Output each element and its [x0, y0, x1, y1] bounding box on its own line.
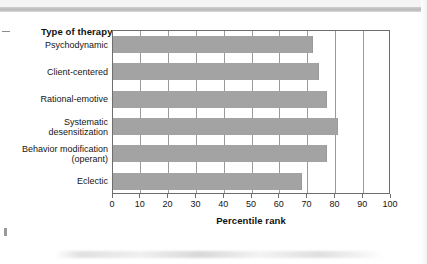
bar-slot [113, 91, 389, 108]
x-tick-mark-60 [278, 194, 279, 198]
x-tick-label-40: 40 [218, 199, 228, 209]
page-top-margin [0, 0, 427, 7]
x-tick-mark-30 [195, 194, 196, 198]
x-axis-title: Percentile rank [112, 215, 390, 226]
bar-slot [113, 36, 389, 53]
x-tick-label-10: 10 [135, 199, 145, 209]
x-tick-label-70: 70 [302, 199, 312, 209]
x-tick-label-0: 0 [109, 199, 114, 209]
bar-slot [113, 173, 389, 190]
category-label: Rational-emotive [40, 94, 108, 105]
category-label-line: Behavior modification [22, 143, 108, 154]
category-label-line: Client-centered [47, 67, 108, 78]
y-axis-title: Type of therapy [41, 26, 113, 37]
category-label-line: Eclectic [77, 176, 108, 187]
x-tick-label-50: 50 [246, 199, 256, 209]
bar-psychodynamic [113, 36, 313, 53]
x-tick-mark-40 [223, 194, 224, 198]
bar-row: Client-centered [113, 58, 389, 85]
bar-slot [113, 145, 389, 162]
category-label: Client-centered [47, 67, 108, 78]
bar-client-centered [113, 63, 319, 80]
x-tick-mark-10 [139, 194, 140, 198]
category-label-line: Rational-emotive [40, 94, 108, 105]
category-label-line: Systematic [48, 116, 108, 127]
bar-row: Eclectic [113, 168, 389, 195]
category-label-line: desensitization [48, 127, 108, 138]
caption-smudge [55, 251, 385, 258]
x-tick-label-60: 60 [274, 199, 284, 209]
plot-area: PsychodynamicClient-centeredRational-emo… [112, 30, 390, 194]
bar-chart: Type of therapy PsychodynamicClient-cent… [0, 12, 427, 252]
bar-row: Psychodynamic [113, 31, 389, 58]
x-tick-label-30: 30 [190, 199, 200, 209]
bar-eclectic [113, 173, 302, 190]
bar-slot [113, 118, 389, 135]
x-tick-label-90: 90 [357, 199, 367, 209]
x-tick-label-80: 80 [329, 199, 339, 209]
bar-row: Rational-emotive [113, 86, 389, 113]
figure-page: Type of therapy PsychodynamicClient-cent… [0, 0, 427, 264]
bar-behavior-modification [113, 145, 327, 162]
x-tick-mark-80 [334, 194, 335, 198]
x-tick-mark-20 [167, 194, 168, 198]
x-tick-mark-90 [362, 194, 363, 198]
bar-row: Systematicdesensitization [113, 113, 389, 140]
bar-slot [113, 63, 389, 80]
bar-rational-emotive [113, 91, 327, 108]
category-label: Systematicdesensitization [48, 116, 108, 137]
bar-row: Behavior modification(operant) [113, 140, 389, 167]
x-tick-mark-0 [112, 194, 113, 198]
category-label-line: Psychodynamic [45, 39, 108, 50]
category-label: Behavior modification(operant) [22, 143, 108, 164]
x-tick-mark-50 [251, 194, 252, 198]
category-label-line: (operant) [22, 154, 108, 165]
x-tick-label-100: 100 [382, 199, 397, 209]
x-tick-label-20: 20 [163, 199, 173, 209]
category-label: Eclectic [77, 176, 108, 187]
category-label: Psychodynamic [45, 39, 108, 50]
bar-systematic [113, 118, 338, 135]
x-tick-mark-70 [306, 194, 307, 198]
x-tick-mark-100 [390, 194, 391, 198]
